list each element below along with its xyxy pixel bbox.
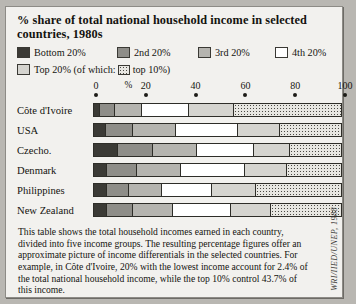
stacked-bar xyxy=(93,123,342,137)
legend-label-top-suffix: top 10%) xyxy=(133,64,171,75)
country-label: Denmark xyxy=(17,165,93,176)
axis-tick-label: 80 xyxy=(290,80,300,91)
fourth-20-swatch-icon xyxy=(275,47,288,58)
bar-segment xyxy=(197,144,254,156)
top-10-overlay xyxy=(289,144,341,156)
bar-segment xyxy=(115,104,142,116)
bar-segment xyxy=(106,124,133,136)
legend-item-3rd-20: 3rd 20% xyxy=(198,47,275,58)
axis-tick-label: 20 xyxy=(141,80,151,91)
stacked-bar xyxy=(93,203,342,217)
axis-tick-dot xyxy=(94,93,98,97)
stacked-bar xyxy=(93,183,342,197)
legend-row-primary: Bottom 20% 2nd 20% 3rd 20% 4th 20% xyxy=(17,45,333,60)
bar-segment xyxy=(94,204,107,216)
axis-tick-dot xyxy=(293,93,297,97)
axis-tick-dot xyxy=(343,93,347,97)
figure-note: This table shows the total household inc… xyxy=(18,226,310,296)
axis-tick-dot xyxy=(243,93,247,97)
bar-segment xyxy=(176,124,238,136)
bar-segment xyxy=(142,104,189,116)
bar-segment xyxy=(129,184,162,196)
bar-segment xyxy=(118,144,153,156)
bar-segment xyxy=(100,104,115,116)
stacked-bar xyxy=(93,163,342,177)
legend-item-bottom-20: Bottom 20% xyxy=(17,47,117,58)
country-label: Côte d'Ivoire xyxy=(17,105,93,116)
bar-segment xyxy=(173,204,230,216)
bar-segment xyxy=(94,124,106,136)
country-label: Czecho. xyxy=(17,145,93,156)
bar-segment xyxy=(107,184,129,196)
axis-tick-label: 100 xyxy=(338,80,353,91)
bar-segment xyxy=(137,164,181,176)
axis-tick-dot xyxy=(144,93,148,97)
stacked-bar xyxy=(93,143,342,157)
top-10-overlay xyxy=(286,164,341,176)
country-label: New Zealand xyxy=(17,205,93,216)
second-20-swatch-icon xyxy=(117,47,130,58)
top-10-overlay xyxy=(279,124,341,136)
bar-row: USA xyxy=(17,121,333,139)
source-credit: WRI/IIED/UNEP, 1988 xyxy=(330,207,339,291)
bar-segment xyxy=(133,124,176,136)
bar-row: Côte d'Ivoire xyxy=(17,101,333,119)
bar-segment xyxy=(181,164,244,176)
legend-label: Bottom 20% xyxy=(34,47,86,58)
bar-segment xyxy=(133,204,173,216)
legend-row-top: Top 20% (of which: top 10%) xyxy=(17,62,333,77)
legend-label-top-prefix: Top 20% (of which: xyxy=(34,64,116,75)
bar-row: Philippines xyxy=(17,181,333,199)
legend-item-2nd-20: 2nd 20% xyxy=(117,47,198,58)
bar-segment xyxy=(94,144,118,156)
bar-row: New Zealand xyxy=(17,201,333,219)
chart-title: % share of total national household inco… xyxy=(17,14,333,41)
country-label: USA xyxy=(17,125,93,136)
bar-segment xyxy=(107,164,137,176)
bar-segment xyxy=(107,204,134,216)
bar-segment xyxy=(94,184,107,196)
legend-item-4th-20: 4th 20% xyxy=(275,47,326,58)
top-10-overlay xyxy=(233,104,341,116)
bar-row: Czecho. xyxy=(17,141,333,159)
figure-panel: % share of total national household inco… xyxy=(5,6,343,298)
bottom-20-swatch-icon xyxy=(17,47,30,58)
bar-row: Denmark xyxy=(17,161,333,179)
axis-tick-label: 40 xyxy=(191,80,201,91)
third-20-swatch-icon xyxy=(198,47,211,58)
legend-label: 3rd 20% xyxy=(215,47,250,58)
axis-tick-label: 60 xyxy=(240,80,250,91)
plot-area: % 0 20 40 60 80 100 Côte d'IvoireUSACzec… xyxy=(17,80,333,219)
top-20-swatch-icon xyxy=(17,64,30,75)
stacked-bar xyxy=(93,103,342,117)
axis-tick-dot xyxy=(194,93,198,97)
axis-percent-symbol: % xyxy=(124,80,132,90)
country-label: Philippines xyxy=(17,185,93,196)
top-10-overlay xyxy=(255,184,341,196)
bar-segment xyxy=(153,144,197,156)
legend-label: 2nd 20% xyxy=(134,47,171,58)
axis-tick-label: 0 xyxy=(94,80,99,91)
bars-container: Côte d'IvoireUSACzecho.DenmarkPhilippine… xyxy=(17,101,333,219)
legend-label: 4th 20% xyxy=(292,47,326,58)
bar-segment xyxy=(162,184,212,196)
top-10-swatch-icon xyxy=(118,65,130,75)
bar-segment xyxy=(94,164,107,176)
x-axis: % 0 20 40 60 80 100 xyxy=(96,80,345,101)
